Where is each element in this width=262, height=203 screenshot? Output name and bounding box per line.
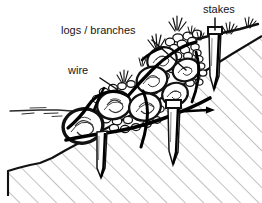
waterline [10, 108, 72, 117]
diagram-canvas: logs / branches wire stakes [0, 0, 262, 203]
label-wire: wire [68, 65, 88, 76]
label-stakes: stakes [203, 4, 235, 15]
label-logs-branches: logs / branches [61, 25, 136, 36]
